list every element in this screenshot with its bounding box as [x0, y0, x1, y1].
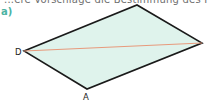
vertex-label-d: D: [15, 47, 22, 57]
vertex-label-a: A: [83, 92, 89, 102]
parallelogram-figure: D A: [0, 0, 209, 102]
